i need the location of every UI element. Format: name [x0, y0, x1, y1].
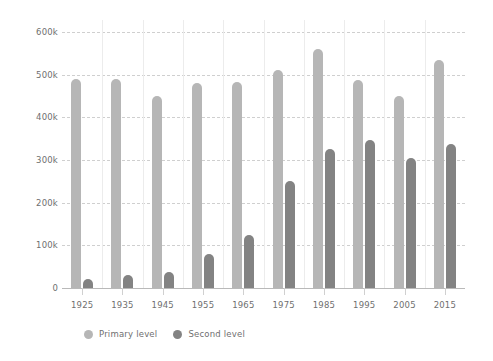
bar-2005-second	[406, 158, 416, 288]
bar-1945-primary	[152, 96, 162, 288]
plot-area	[62, 20, 465, 300]
legend-swatch-icon	[84, 330, 93, 339]
bar-1995-second	[365, 140, 375, 288]
y-tick-label: 500k	[12, 70, 58, 80]
x-tick-mark	[243, 288, 244, 295]
x-tick-mark	[364, 288, 365, 295]
y-tick-label: 200k	[12, 198, 58, 208]
x-tick-mark	[405, 288, 406, 295]
bar-1945-second	[164, 272, 174, 288]
bar-1955-primary	[192, 83, 202, 288]
bar-1995-primary	[353, 80, 363, 288]
x-tick-mark	[203, 288, 204, 295]
y-tick-label: 400k	[12, 112, 58, 122]
bar-1975-second	[285, 181, 295, 288]
x-tick-label: 2015	[434, 300, 456, 310]
x-tick-label: 1965	[232, 300, 254, 310]
vertical-gridline	[304, 20, 305, 288]
chart-legend: Primary levelSecond level	[84, 329, 245, 339]
bar-1925-second	[83, 279, 93, 288]
bar-2015-primary	[434, 60, 444, 288]
x-tick-label: 1995	[353, 300, 375, 310]
bar-1925-primary	[71, 79, 81, 288]
legend-label: Primary level	[99, 329, 157, 339]
vertical-gridline	[344, 20, 345, 288]
vertical-gridline	[183, 20, 184, 288]
y-tick-label: 0	[12, 283, 58, 293]
x-tick-label: 1945	[152, 300, 174, 310]
x-tick-label: 2005	[393, 300, 415, 310]
bar-2015-second	[446, 144, 456, 288]
x-tick-label: 1975	[272, 300, 294, 310]
vertical-gridline	[223, 20, 224, 288]
legend-item-second-level[interactable]: Second level	[173, 329, 245, 339]
x-tick-mark	[163, 288, 164, 295]
x-tick-mark	[324, 288, 325, 295]
bar-1965-second	[244, 235, 254, 288]
x-tick-label: 1925	[71, 300, 93, 310]
bar-1955-second	[204, 254, 214, 288]
x-tick-mark	[284, 288, 285, 295]
x-tick-mark	[122, 288, 123, 295]
legend-item-primary-level[interactable]: Primary level	[84, 329, 157, 339]
x-tick-label: 1985	[313, 300, 335, 310]
bar-1935-second	[123, 275, 133, 288]
vertical-gridline	[102, 20, 103, 288]
bar-1935-primary	[111, 79, 121, 288]
x-tick-mark	[82, 288, 83, 295]
x-tick-label: 1935	[111, 300, 133, 310]
vertical-gridline	[264, 20, 265, 288]
x-tick-label: 1955	[192, 300, 214, 310]
legend-swatch-icon	[173, 330, 182, 339]
bar-1985-second	[325, 149, 335, 288]
y-tick-label: 300k	[12, 155, 58, 165]
y-tick-label: 600k	[12, 27, 58, 37]
bar-chart: Primary levelSecond level 600k500k400k30…	[0, 0, 493, 361]
bar-1975-primary	[273, 70, 283, 288]
x-tick-mark	[445, 288, 446, 295]
vertical-gridline	[425, 20, 426, 288]
vertical-gridline	[384, 20, 385, 288]
bar-1965-primary	[232, 82, 242, 288]
y-tick-label: 100k	[12, 240, 58, 250]
bar-1985-primary	[313, 49, 323, 288]
vertical-gridline	[143, 20, 144, 288]
bar-2005-primary	[394, 96, 404, 288]
legend-label: Second level	[188, 329, 245, 339]
